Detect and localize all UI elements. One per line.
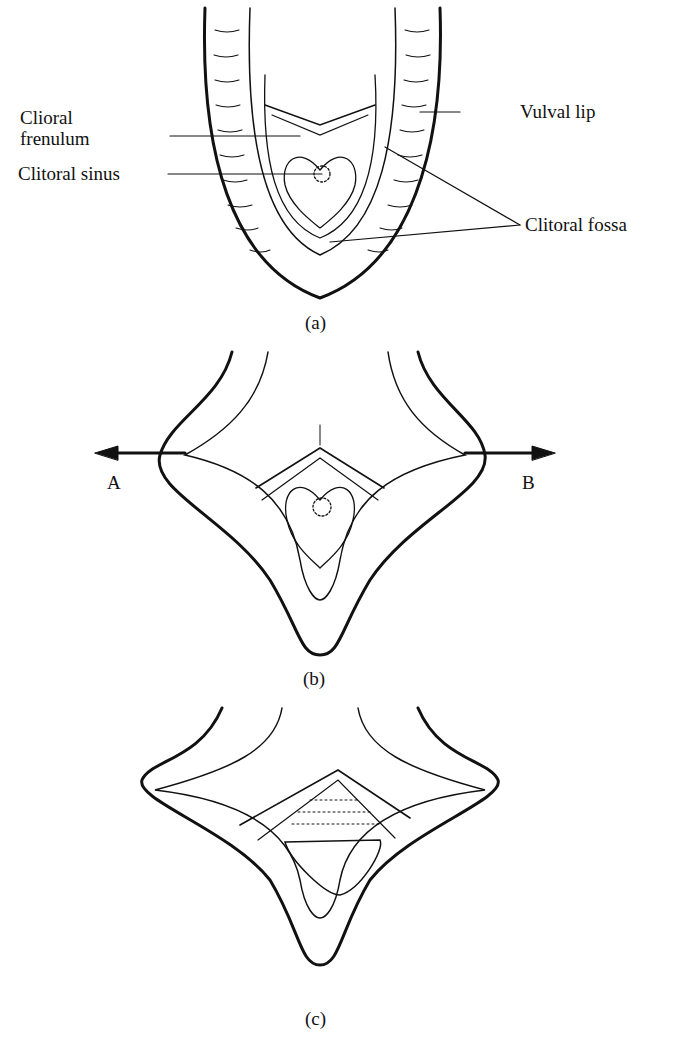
diagram-canvas bbox=[0, 0, 693, 1055]
panel-a-drawing bbox=[168, 8, 520, 298]
caption-c: (c) bbox=[305, 1008, 326, 1030]
panel-b-drawing bbox=[95, 352, 555, 655]
label-clitoral-sinus: Clitoral sinus bbox=[18, 163, 120, 184]
caption-b: (b) bbox=[303, 668, 325, 690]
label-clitoral-frenulum: Clioral frenulum bbox=[20, 107, 90, 149]
label-line-2: frenulum bbox=[20, 128, 90, 149]
panel-c-drawing bbox=[142, 708, 499, 965]
label-vulval-lip: Vulval lip bbox=[520, 101, 595, 122]
label-arrow-b: B bbox=[522, 472, 535, 493]
label-arrow-a: A bbox=[107, 472, 121, 493]
caption-a: (a) bbox=[305, 312, 326, 334]
label-line-1: Clioral bbox=[20, 107, 90, 128]
label-clitoral-fossa: Clitoral fossa bbox=[525, 214, 627, 235]
